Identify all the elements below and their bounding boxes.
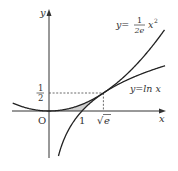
parabola-label-num: 1 bbox=[137, 16, 142, 25]
parabola-label-den: 2e bbox=[134, 26, 145, 35]
shaded-region bbox=[49, 93, 103, 111]
x-axis-label: x bbox=[159, 113, 165, 124]
y-axis-label: y bbox=[39, 7, 46, 18]
ln-label: y=ln x bbox=[129, 83, 162, 94]
parabola-label-lhs: y= bbox=[115, 19, 129, 30]
tick-label-sqrt-arg: e bbox=[104, 115, 110, 126]
tick-label-one: 1 bbox=[79, 115, 85, 126]
curve-parabola bbox=[13, 30, 165, 111]
parabola-label-exp: 2 bbox=[154, 17, 158, 24]
diagram-canvas: y x O 1 √ e 1 2 y= 1 2e x 2 y=ln x bbox=[0, 0, 178, 171]
origin-label: O bbox=[38, 115, 46, 126]
y-axis-arrow-icon bbox=[47, 9, 52, 16]
tick-label-half-den: 2 bbox=[38, 93, 43, 103]
tick-label-half-num: 1 bbox=[38, 83, 43, 93]
tick-label-sqrt-radical: √ bbox=[97, 115, 104, 126]
